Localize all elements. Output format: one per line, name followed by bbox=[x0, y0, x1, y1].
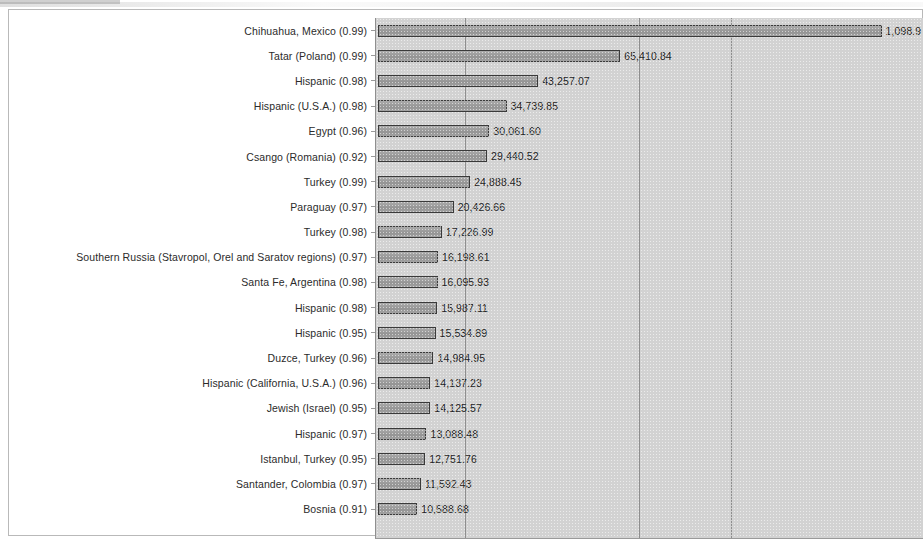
category-label-text: Chihuahua, Mexico (0.99) bbox=[244, 25, 367, 37]
category-label: Bosnia (0.91) bbox=[16, 497, 375, 522]
bar[interactable] bbox=[378, 276, 438, 288]
bar-row: 10,588.68 bbox=[376, 497, 923, 522]
bar-value-label: 24,888.45 bbox=[474, 176, 522, 188]
category-label-text: Santander, Colombia (0.97) bbox=[236, 478, 367, 490]
bar-row: 14,984.95 bbox=[376, 345, 923, 370]
category-label: Tatar (Poland) (0.99) bbox=[16, 43, 375, 68]
category-label: Southern Russia (Stavropol, Orel and Sar… bbox=[16, 245, 375, 270]
bar[interactable] bbox=[378, 50, 620, 62]
category-label: Istanbul, Turkey (0.95) bbox=[16, 446, 375, 471]
category-label: Paraguay (0.97) bbox=[16, 194, 375, 219]
bar-row: 30,061.60 bbox=[376, 119, 923, 144]
bar-row: 15,534.89 bbox=[376, 320, 923, 345]
category-label-text: Hispanic (California, U.S.A.) (0.96) bbox=[202, 377, 367, 389]
bar-row: 14,137.23 bbox=[376, 371, 923, 396]
bar-row: 16,095.93 bbox=[376, 270, 923, 295]
category-label-text: Hispanic (U.S.A.) (0.98) bbox=[254, 100, 367, 112]
category-label-text: Hispanic (0.98) bbox=[295, 75, 367, 87]
category-label: Hispanic (0.98) bbox=[16, 68, 375, 93]
category-label: Jewish (Israel) (0.95) bbox=[16, 396, 375, 421]
bar-value-label: 14,125.57 bbox=[434, 402, 482, 414]
bar[interactable] bbox=[378, 100, 507, 112]
bar-value-label: 12,751.76 bbox=[429, 453, 477, 465]
category-label: Chihuahua, Mexico (0.99) bbox=[16, 18, 375, 43]
bar[interactable] bbox=[378, 478, 421, 490]
category-label-text: Turkey (0.99) bbox=[304, 176, 367, 188]
scan-artifact-mark bbox=[0, 0, 120, 4]
bar-row: 20,426.66 bbox=[376, 194, 923, 219]
category-label: Hispanic (U.S.A.) (0.98) bbox=[16, 94, 375, 119]
category-label-text: Tatar (Poland) (0.99) bbox=[269, 50, 367, 62]
bar-value-label: 65,410.84 bbox=[624, 50, 672, 62]
category-label-text: Bosnia (0.91) bbox=[303, 503, 367, 515]
bar-value-label: 16,095.93 bbox=[442, 276, 490, 288]
bar[interactable] bbox=[378, 201, 454, 213]
category-label: Hispanic (0.98) bbox=[16, 295, 375, 320]
bar-value-label: 34,739.85 bbox=[511, 100, 559, 112]
category-label-text: Egypt (0.96) bbox=[309, 125, 367, 137]
bar-value-label: 10,588.68 bbox=[421, 503, 469, 515]
bar-value-label: 17,226.99 bbox=[446, 226, 494, 238]
bar-row: 29,440.52 bbox=[376, 144, 923, 169]
bar-row: 24,888.45 bbox=[376, 169, 923, 194]
scan-artifact-strip bbox=[0, 2, 923, 7]
category-label: Hispanic (California, U.S.A.) (0.96) bbox=[16, 371, 375, 396]
category-label: Hispanic (0.95) bbox=[16, 320, 375, 345]
category-label-text: Csango (Romania) (0.92) bbox=[246, 151, 367, 163]
category-label-text: Istanbul, Turkey (0.95) bbox=[260, 453, 367, 465]
category-label-text: Turkey (0.98) bbox=[304, 226, 367, 238]
bar-row: 1,098.9 bbox=[376, 18, 923, 43]
bar-row: 15,987.11 bbox=[376, 295, 923, 320]
category-label-text: Hispanic (0.98) bbox=[295, 302, 367, 314]
category-label-text: Hispanic (0.95) bbox=[295, 327, 367, 339]
bar-rows: 1,098.965,410.8443,257.0734,739.8530,061… bbox=[376, 18, 923, 538]
bar-row: 11,592.43 bbox=[376, 471, 923, 496]
bar-value-label: 29,440.52 bbox=[491, 150, 539, 162]
category-label: Egypt (0.96) bbox=[16, 119, 375, 144]
bar[interactable] bbox=[378, 25, 882, 37]
bar[interactable] bbox=[378, 503, 417, 515]
bar-value-label: 1,098.9 bbox=[886, 25, 922, 37]
category-label: Santander, Colombia (0.97) bbox=[16, 471, 375, 496]
bar[interactable] bbox=[378, 226, 442, 238]
bar-row: 12,751.76 bbox=[376, 446, 923, 471]
bar[interactable] bbox=[378, 150, 487, 162]
bar-value-label: 14,984.95 bbox=[437, 352, 485, 364]
bar[interactable] bbox=[378, 75, 538, 87]
bar[interactable] bbox=[378, 176, 470, 188]
bar-row: 17,226.99 bbox=[376, 220, 923, 245]
bar-value-label: 15,534.89 bbox=[440, 327, 488, 339]
plot-area: 1,098.965,410.8443,257.0734,739.8530,061… bbox=[375, 18, 923, 539]
bar-value-label: 30,061.60 bbox=[493, 125, 541, 137]
category-label-text: Santa Fe, Argentina (0.98) bbox=[241, 276, 367, 288]
bar[interactable] bbox=[378, 251, 438, 263]
bar[interactable] bbox=[378, 453, 425, 465]
bar[interactable] bbox=[378, 402, 430, 414]
category-label: Turkey (0.99) bbox=[16, 169, 375, 194]
bar-row: 34,739.85 bbox=[376, 94, 923, 119]
bar-row: 14,125.57 bbox=[376, 396, 923, 421]
bar-row: 13,088.48 bbox=[376, 421, 923, 446]
bar-value-label: 13,088.48 bbox=[430, 428, 478, 440]
bar-value-label: 11,592.43 bbox=[425, 478, 472, 490]
bar-value-label: 20,426.66 bbox=[458, 201, 506, 213]
category-label-text: Jewish (Israel) (0.95) bbox=[267, 402, 367, 414]
bar-row: 16,198.61 bbox=[376, 245, 923, 270]
bar[interactable] bbox=[378, 377, 430, 389]
category-label-text: Southern Russia (Stavropol, Orel and Sar… bbox=[76, 251, 367, 263]
bar[interactable] bbox=[378, 352, 433, 364]
bar-value-label: 15,987.11 bbox=[441, 302, 488, 314]
category-label-text: Hispanic (0.97) bbox=[295, 428, 367, 440]
bar-value-label: 16,198.61 bbox=[442, 251, 490, 263]
category-label: Turkey (0.98) bbox=[16, 220, 375, 245]
bar[interactable] bbox=[378, 428, 426, 440]
category-axis-labels: Chihuahua, Mexico (0.99)Tatar (Poland) (… bbox=[16, 18, 375, 539]
bar-value-label: 14,137.23 bbox=[434, 377, 482, 389]
category-label: Duzce, Turkey (0.96) bbox=[16, 345, 375, 370]
category-label: Santa Fe, Argentina (0.98) bbox=[16, 270, 375, 295]
category-label: Csango (Romania) (0.92) bbox=[16, 144, 375, 169]
bar[interactable] bbox=[378, 327, 436, 339]
bar[interactable] bbox=[378, 125, 489, 137]
bar[interactable] bbox=[378, 302, 437, 314]
bar-chart: Chihuahua, Mexico (0.99)Tatar (Poland) (… bbox=[8, 9, 923, 536]
